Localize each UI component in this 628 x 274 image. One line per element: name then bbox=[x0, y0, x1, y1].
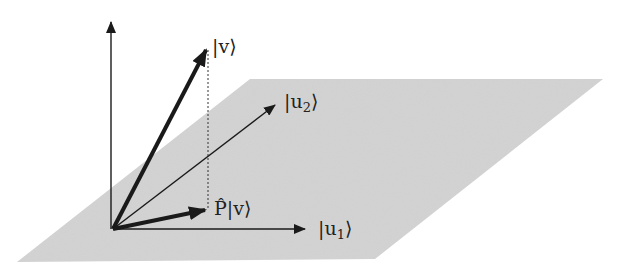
label-projection-pv: P̂|v⟩ bbox=[214, 197, 251, 220]
label-u1: |u1⟩ bbox=[318, 217, 352, 242]
label-u2: |u2⟩ bbox=[284, 90, 318, 115]
label-v: |v⟩ bbox=[212, 35, 237, 58]
projection-diagram: |v⟩ |u2⟩ P̂|v⟩ |u1⟩ bbox=[0, 0, 628, 274]
diagram-canvas: |v⟩ |u2⟩ P̂|v⟩ |u1⟩ bbox=[0, 0, 628, 274]
